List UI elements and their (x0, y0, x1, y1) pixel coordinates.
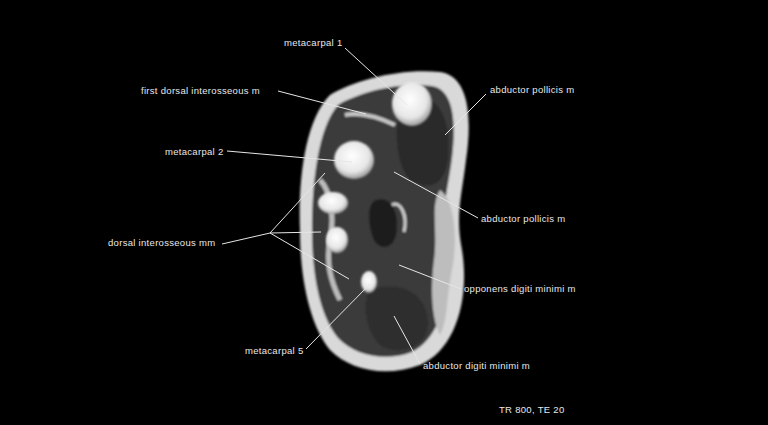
label-abductor-pollicis-top: abductor pollicis m (490, 85, 574, 95)
label-metacarpal-5: metacarpal 5 (245, 346, 304, 356)
label-dorsal-interosseous: dorsal interosseous mm (108, 238, 215, 248)
hand-cross-section (300, 71, 469, 371)
mri-anatomy-illustration (0, 0, 768, 425)
metacarpal-5-bone (361, 271, 377, 293)
metacarpal-2-bone (334, 141, 374, 179)
label-abductor-digiti-minimi: abductor digiti minimi m (423, 361, 530, 371)
label-opponens-digiti-minimi: opponens digiti minimi m (464, 284, 576, 294)
label-first-dorsal-interosseous: first dorsal interosseous m (141, 86, 260, 96)
metacarpal-4-bone (326, 227, 348, 253)
metacarpal-3-bone (318, 192, 348, 214)
label-metacarpal-1: metacarpal 1 (284, 38, 343, 48)
label-abductor-pollicis-mid: abductor pollicis m (481, 214, 565, 224)
sequence-parameters: TR 800, TE 20 (499, 405, 565, 415)
metacarpal-1-bone (392, 82, 432, 126)
mri-figure: metacarpal 1 first dorsal interosseous m… (0, 0, 768, 425)
leader-dorsal-interosseous-stem (222, 233, 270, 244)
label-metacarpal-2: metacarpal 2 (165, 147, 224, 157)
